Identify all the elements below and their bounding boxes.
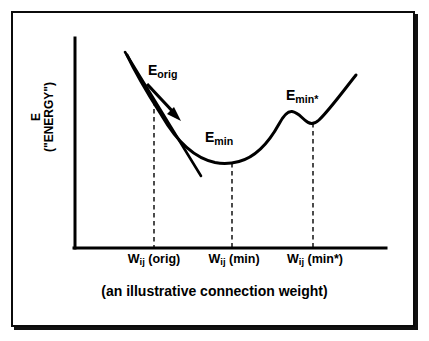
y-axis-label: ("ENERGY") E [26, 57, 60, 177]
x-tick-label-orig: Wij (orig) [128, 253, 181, 266]
x-tick-minstar-paren: (min*) [308, 252, 343, 266]
y-axis-label-units: ("ENERGY") [43, 82, 56, 152]
x-tick-minstar-base: W [287, 252, 299, 266]
label-e-min-star: Emin* [286, 88, 318, 102]
label-e-min-sub: min [214, 135, 233, 147]
x-tick-orig-base: W [128, 252, 140, 266]
x-tick-label-minstar: Wij (min*) [287, 253, 343, 266]
label-e-min-base: E [205, 129, 214, 145]
label-e-orig-sub: orig [157, 68, 177, 80]
x-tick-minstar-sub: ij [299, 256, 304, 267]
label-e-min: Emin [205, 130, 233, 144]
x-tick-min-paren: (min) [229, 252, 260, 266]
x-tick-orig-sub: ij [140, 256, 145, 267]
label-e-min-star-sub: min* [295, 93, 318, 105]
label-e-min-star-base: E [286, 87, 295, 103]
x-tick-label-min: Wij (min) [208, 253, 259, 266]
x-tick-min-sub: ij [220, 256, 225, 267]
x-tick-min-base: W [208, 252, 220, 266]
y-axis-label-symbol: E [30, 113, 43, 121]
x-axis-caption: (an illustrative connection weight) [0, 284, 429, 298]
label-e-orig: Eorig [148, 63, 177, 77]
x-tick-orig-paren: (orig) [148, 252, 180, 266]
label-e-orig-base: E [148, 62, 157, 78]
